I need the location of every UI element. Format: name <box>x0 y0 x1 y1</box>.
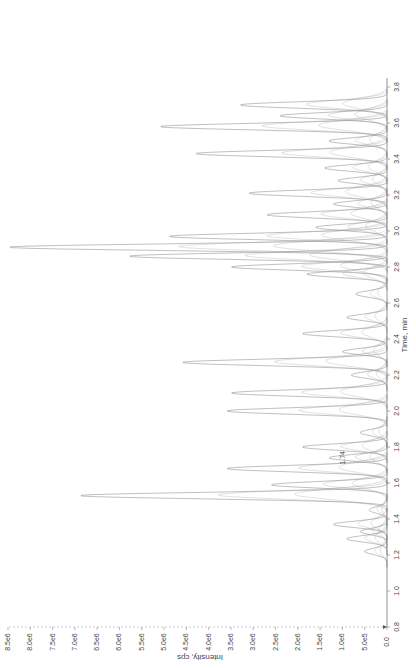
origin-arrow-icon <box>383 625 387 629</box>
y-tick-label: 5.0e5 <box>361 633 368 651</box>
plot-area <box>10 88 387 567</box>
x-tick-label: 3.8 <box>393 82 400 92</box>
x-tick-label: 2.4 <box>393 334 400 344</box>
y-tick-label: 4.0e6 <box>205 633 212 651</box>
peak-trace <box>369 495 387 527</box>
x-tick-label: 3.0 <box>393 226 400 236</box>
y-tick-label: 6.0e6 <box>115 633 122 651</box>
y-tick-label: 1.0e6 <box>338 633 345 651</box>
peak-trace <box>363 257 387 289</box>
y-axis-label: Intensity, cps <box>177 653 223 662</box>
peak-trace <box>161 111 387 143</box>
peak-trace <box>341 431 387 463</box>
peak-trace <box>303 318 387 350</box>
x-tick-label: 2.0 <box>393 406 400 416</box>
peak-trace <box>328 100 387 132</box>
y-tick-label: 8.5e6 <box>4 633 11 651</box>
peak-trace <box>343 88 387 120</box>
peak-trace <box>370 124 387 156</box>
peak-trace <box>321 199 387 231</box>
peak-trace <box>374 335 387 367</box>
peak-trace <box>375 301 387 333</box>
peak-trace <box>81 480 387 512</box>
peak-trace <box>228 396 388 428</box>
peak-trace <box>325 153 387 185</box>
peak-trace <box>250 178 387 210</box>
peak-trace <box>375 522 387 554</box>
peak-trace <box>326 346 387 378</box>
peak-trace <box>267 220 387 252</box>
y-tick-label: 1.5e6 <box>316 633 323 651</box>
y-tick-label: 7.5e6 <box>49 633 56 651</box>
x-tick-label: 3.6 <box>393 118 400 128</box>
x-tick-label: 1.0 <box>393 586 400 596</box>
peak-trace <box>372 164 387 196</box>
peak-trace <box>299 395 387 427</box>
peak-trace <box>183 347 387 379</box>
peak-trace <box>339 394 387 426</box>
peak-trace <box>380 535 387 567</box>
x-tick-label: 3.2 <box>393 190 400 200</box>
peak-trace <box>306 89 387 121</box>
x-tick-label: 1.6 <box>393 478 400 488</box>
axes: 0.81.01.21.41.61.82.02.22.42.62.83.03.23… <box>4 78 400 651</box>
y-tick-label: 5.5e6 <box>138 633 145 651</box>
y-tick-label: 4.5e6 <box>182 633 189 651</box>
peak-trace <box>353 152 387 184</box>
x-tick-label: 1.2 <box>393 550 400 560</box>
peak-trace <box>355 125 387 157</box>
y-tick-label: 2.0e6 <box>294 633 301 651</box>
y-tick-label: 2.5e6 <box>272 633 279 651</box>
peak-trace <box>218 479 387 511</box>
peak-trace <box>341 317 387 349</box>
peak-trace <box>179 231 386 263</box>
chromatogram-chart: 0.81.01.21.41.61.82.02.22.42.62.83.03.23… <box>0 0 416 668</box>
y-tick-label: 7.0e6 <box>71 633 78 651</box>
peak-trace <box>241 90 387 122</box>
x-tick-label: 2.6 <box>393 298 400 308</box>
y-tick-label: 6.5e6 <box>93 633 100 651</box>
y-tick-label: 8.0e6 <box>26 633 33 651</box>
peak-trace <box>356 279 387 311</box>
peak-trace <box>274 230 386 262</box>
x-tick-label: 1.8 <box>393 442 400 452</box>
x-axis-label: Time, min <box>400 318 409 353</box>
x-tick-label: 1.4 <box>393 514 400 524</box>
y-tick-label: 3.5e6 <box>227 633 234 651</box>
y-tick-label: 5.0e6 <box>160 633 167 651</box>
peak-trace <box>372 416 387 448</box>
peak-trace <box>228 453 388 485</box>
peak-trace <box>311 177 387 209</box>
x-tick-label: 3.4 <box>393 154 400 164</box>
y-tick-label: 3.0e6 <box>249 633 256 651</box>
peak-trace <box>368 151 387 183</box>
peak-annotation: 1.74 <box>339 451 346 465</box>
x-tick-label: 2.2 <box>393 370 400 380</box>
peak-trace <box>358 188 387 220</box>
peak-trace <box>197 138 388 170</box>
x-tick-label: 2.8 <box>393 262 400 272</box>
peak-trace <box>130 241 387 273</box>
y-tick-label: 0.0 <box>383 637 390 647</box>
peak-trace <box>316 212 387 244</box>
x-tick-label: 0.8 <box>393 622 400 632</box>
peak-trace <box>367 359 387 391</box>
peak-trace <box>295 479 386 511</box>
peak-trace <box>275 346 387 378</box>
peak-trace <box>272 469 387 501</box>
peak-trace <box>334 189 387 221</box>
